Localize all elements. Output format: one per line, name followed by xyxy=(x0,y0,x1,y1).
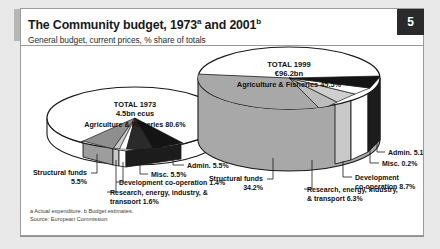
pie-1999-side-research xyxy=(335,98,351,164)
figure-header: The Community budget, 1973a and 2001b Ge… xyxy=(28,14,388,45)
callout-1999-structural-funds-line2: 34.2% xyxy=(243,184,264,191)
pie-1999-side-development xyxy=(351,90,368,160)
title-footnote-b: b xyxy=(256,17,261,26)
callout-1973-structural-funds-line2: 5.5% xyxy=(71,178,88,185)
callout-1973-research-line2: transport 1.6% xyxy=(110,198,159,204)
source-line: Source: European Commission xyxy=(30,216,360,224)
callout-1999-admin-line1: Admin. 5.1% xyxy=(388,149,423,156)
callout-1999-structural-funds-line1: Structural funds xyxy=(209,175,263,182)
callout-1999-research-line2: & transport 6.3% xyxy=(307,195,363,203)
page-title: The Community budget, 1973a and 2001b xyxy=(28,14,388,33)
footnote-definitions: a Actual expenditure. b Budget estimates… xyxy=(30,208,360,216)
pie-1973-side-development xyxy=(119,150,126,167)
figure-root: The Community budget, 1973a and 2001b Ge… xyxy=(0,0,440,249)
title-mid: and 2001 xyxy=(201,18,256,32)
pie-1973-total-line2: 4.5bn ecus xyxy=(116,109,154,118)
bottom-divider xyxy=(20,236,424,237)
page-number-badge: 5 xyxy=(397,9,424,35)
callout-1973-research-line1: Research, energy, industry, & xyxy=(110,189,208,197)
callout-1999-misc-line1: Misc. 0.2% xyxy=(382,160,418,167)
pie-1999-agriculture-label: Agriculture & Fisheries 45.5% xyxy=(237,80,342,89)
page-subtitle: General budget, current prices, % share … xyxy=(28,35,388,45)
callout-1973-structural-funds-line1: Structural funds xyxy=(33,169,87,176)
callout-1973-admin-line1: Admin. 5.5% xyxy=(187,162,229,169)
title-main: The Community budget, 1973 xyxy=(28,18,197,32)
pie-1999-total-line2: €96.2bn xyxy=(275,69,304,78)
chart-canvas: TOTAL 1973 4.5bn ecus Agriculture & Fish… xyxy=(21,46,423,204)
pie-charts-svg: TOTAL 1973 4.5bn ecus Agriculture & Fish… xyxy=(21,46,423,204)
chart-1999: TOTAL 1999 €96.2bn Agriculture & Fisheri… xyxy=(197,47,423,203)
pie-1973-agriculture-label: Agriculture & Fisheries 80.6% xyxy=(84,120,186,129)
pie-1999-total-line1: TOTAL 1999 xyxy=(267,60,310,69)
figure-notes: a Actual expenditure. b Budget estimates… xyxy=(30,208,360,223)
callout-1999-development-line2: co-operation 8.7% xyxy=(355,183,416,191)
callout-1973-misc-line1: Misc. 5.5% xyxy=(151,171,187,178)
pie-1973-total-line1: TOTAL 1973 xyxy=(114,100,156,109)
callout-1999-development-line1: Development xyxy=(355,174,400,182)
